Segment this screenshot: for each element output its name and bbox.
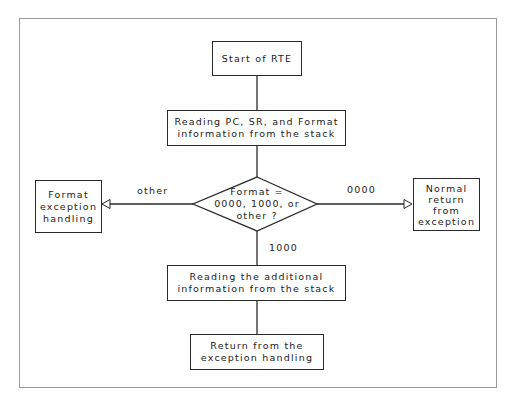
- node-normal-return-label: Normal return from exception: [418, 183, 475, 227]
- node-read-additional: Reading the additional information from …: [167, 265, 346, 301]
- node-read-additional-label: Reading the additional information from …: [177, 271, 335, 295]
- decision-label: Format = 0000, 1000, or other ?: [197, 186, 317, 222]
- node-start-label: Start of RTE: [222, 53, 293, 65]
- node-format-exception-label: Format exception handling: [40, 189, 97, 225]
- node-normal-return: Normal return from exception: [413, 178, 480, 231]
- node-start: Start of RTE: [212, 41, 302, 76]
- edge-label-1000: 1000: [269, 242, 298, 253]
- node-read-pc-sr: Reading PC, SR, and Format information f…: [167, 110, 346, 146]
- edge-label-0000: 0000: [347, 184, 376, 195]
- node-return-handling-label: Return from the exception handling: [201, 340, 313, 364]
- node-return-handling: Return from the exception handling: [190, 334, 324, 370]
- edge-label-other: other: [137, 185, 168, 196]
- arrow-right-icon: [404, 200, 412, 209]
- node-read-pc-sr-label: Reading PC, SR, and Format information f…: [174, 116, 338, 140]
- node-format-exception: Format exception handling: [35, 180, 102, 233]
- arrow-left-icon: [102, 200, 110, 209]
